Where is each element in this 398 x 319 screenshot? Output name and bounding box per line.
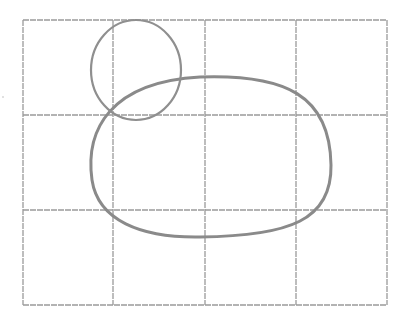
sketch-canvas <box>0 0 398 319</box>
small-circle <box>91 20 181 120</box>
large-oval <box>91 77 331 237</box>
pencil-smudge <box>2 96 4 98</box>
